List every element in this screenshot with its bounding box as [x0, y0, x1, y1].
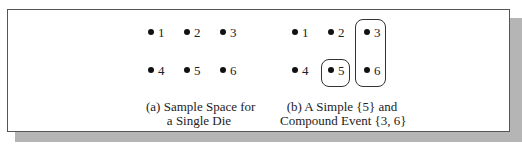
outcome-label: 3 — [374, 25, 381, 40]
outcome-point: 5 — [184, 64, 201, 78]
outcome-point: 6 — [364, 64, 381, 78]
dot-icon — [184, 29, 190, 35]
dot-icon — [292, 29, 298, 35]
outcome-label: 4 — [158, 63, 165, 78]
dot-icon — [220, 29, 226, 35]
caption-b-line1: (b) A Simple {5} and — [280, 100, 404, 114]
caption-b-line2: Compound Event {3, 6} — [280, 114, 404, 128]
outcome-point: 4 — [292, 64, 309, 78]
outcome-point: 3 — [220, 26, 237, 40]
dot-icon — [220, 67, 226, 73]
caption-b: (b) A Simple {5} and Compound Event {3, … — [280, 100, 404, 128]
outcome-label: 2 — [194, 25, 201, 40]
outcome-point: 1 — [148, 26, 165, 40]
dot-icon — [364, 67, 370, 73]
dot-icon — [148, 67, 154, 73]
figure-frame — [7, 9, 510, 132]
outcome-point: 2 — [184, 26, 201, 40]
outcome-label: 1 — [302, 25, 309, 40]
dot-icon — [328, 67, 334, 73]
outcome-point: 6 — [220, 64, 237, 78]
caption-a: (a) Sample Space for a Single Die — [146, 100, 252, 128]
outcome-label: 3 — [230, 25, 237, 40]
outcome-point: 2 — [328, 26, 345, 40]
outcome-label: 6 — [374, 63, 381, 78]
outcome-point: 3 — [364, 26, 381, 40]
outcome-point: 4 — [148, 64, 165, 78]
outcome-label: 5 — [194, 63, 201, 78]
dot-icon — [328, 29, 334, 35]
outcome-label: 1 — [158, 25, 165, 40]
dot-icon — [184, 67, 190, 73]
dot-icon — [292, 67, 298, 73]
dot-icon — [364, 29, 370, 35]
outcome-label: 5 — [338, 63, 345, 78]
dot-icon — [148, 29, 154, 35]
outcome-label: 6 — [230, 63, 237, 78]
outcome-label: 4 — [302, 63, 309, 78]
outcome-label: 2 — [338, 25, 345, 40]
caption-a-line1: (a) Sample Space for — [146, 100, 252, 114]
outcome-point: 1 — [292, 26, 309, 40]
caption-a-line2: a Single Die — [146, 114, 252, 128]
outcome-point: 5 — [328, 64, 345, 78]
